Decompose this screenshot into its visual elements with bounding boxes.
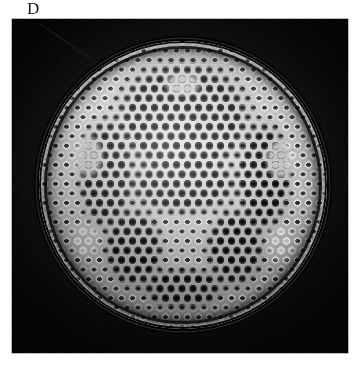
disc-rim-ring (44, 46, 322, 324)
panel-label: D (27, 0, 40, 19)
specimen-micrograph (12, 19, 348, 353)
specimen-disc (39, 41, 327, 329)
figure-panel: D (0, 0, 358, 370)
